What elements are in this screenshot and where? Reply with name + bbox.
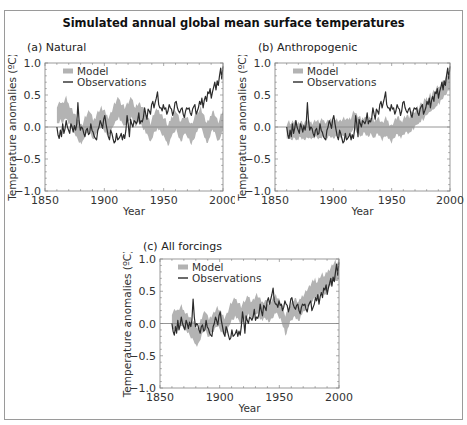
- y-tick-label: 1.0: [24, 57, 42, 70]
- x-axis-label: Year: [237, 402, 261, 414]
- y-tick-label: −0.5: [244, 153, 271, 166]
- x-axis-label: Year: [350, 205, 374, 217]
- y-tick-label: 0.0: [24, 121, 42, 134]
- y-tick-label: 1.0: [139, 253, 157, 266]
- x-tick-label: 1950: [378, 194, 406, 207]
- panel-a-title: (a) Natural: [27, 41, 86, 54]
- legend-model-swatch: [63, 69, 73, 74]
- y-axis-label: Temperature anomalies (ºC): [121, 252, 133, 398]
- x-tick-label: 1900: [319, 194, 347, 207]
- legend-model-swatch: [293, 69, 303, 74]
- panel-b-title: (b) Anthropogenic: [258, 41, 357, 54]
- y-tick-label: −0.5: [129, 350, 156, 363]
- chart-all-forcings: 1.00.50.0−0.5−1.01850190019502000YearTem…: [115, 252, 355, 422]
- x-tick-label: 1900: [206, 391, 234, 404]
- x-tick-label: 2000: [325, 391, 353, 404]
- y-tick-label: 0.5: [24, 89, 42, 102]
- y-tick-label: 0.5: [139, 285, 157, 298]
- figure-title: Simulated annual global mean surface tem…: [0, 16, 467, 30]
- x-tick-label: 1950: [265, 391, 293, 404]
- y-axis-label: Temperature anomalies (ºC): [236, 55, 248, 202]
- legend-observations-label: Observations: [192, 272, 261, 284]
- x-tick-label: 1850: [31, 194, 59, 207]
- x-axis-label: Year: [122, 205, 146, 217]
- y-tick-label: 0.5: [254, 89, 272, 102]
- y-tick-label: 0.0: [139, 318, 157, 331]
- x-tick-label: 1850: [146, 391, 174, 404]
- y-axis-label: Temperature anomalies (ºC): [6, 55, 18, 202]
- x-tick-label: 1850: [261, 194, 289, 207]
- y-tick-label: −0.5: [14, 153, 41, 166]
- y-tick-label: 0.0: [254, 121, 272, 134]
- legend-model-swatch: [178, 265, 188, 270]
- chart-natural: 1.00.50.0−0.5−1.01850190019502000YearTem…: [0, 55, 235, 230]
- x-tick-label: 2000: [436, 194, 464, 207]
- x-tick-label: 1900: [90, 194, 118, 207]
- x-tick-label: 1950: [150, 194, 178, 207]
- legend-observations-label: Observations: [307, 76, 376, 88]
- chart-anthropogenic: 1.00.50.0−0.5−1.01850190019502000YearTem…: [230, 55, 467, 230]
- y-tick-label: 1.0: [254, 57, 272, 70]
- legend-observations-label: Observations: [77, 76, 146, 88]
